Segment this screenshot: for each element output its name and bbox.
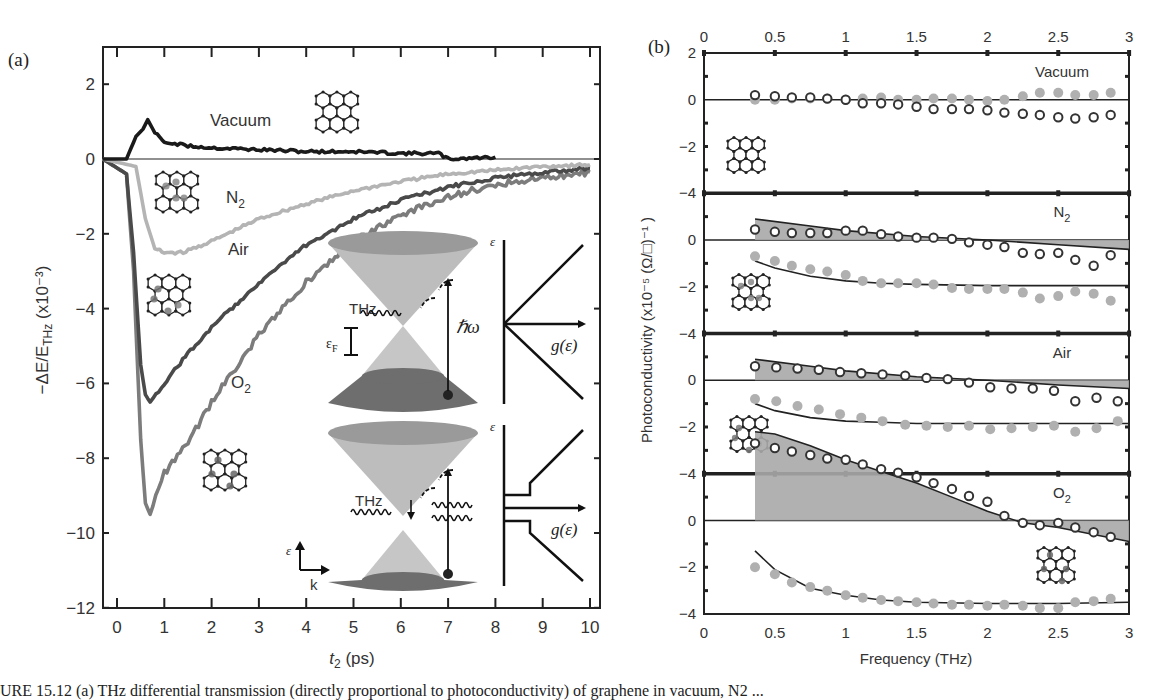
point-imag [1035,293,1045,303]
label-thz-bottom: THz [355,492,383,509]
point-real [1007,384,1015,392]
point-real [1000,512,1008,520]
svg-text:g(ε): g(ε) [551,336,578,355]
y-tick-label: −4 [76,300,95,319]
point-real [1071,256,1079,264]
point-imag [822,586,832,596]
point-real [859,460,867,468]
svg-text:ε: ε [490,234,496,249]
point-real [877,230,885,238]
point-real [878,370,886,378]
point-real [751,225,759,233]
point-real [1019,249,1027,257]
label-hbar-omega: ℏω [456,317,480,337]
point-real [1106,111,1114,119]
x-tick-label-top: 3 [1125,28,1133,45]
emission-wave-2-icon [432,516,472,521]
point-real [857,369,865,377]
point-real [788,447,796,455]
point-imag [1053,603,1063,613]
point-imag [835,409,845,419]
point-imag [1092,423,1102,433]
point-imag [858,593,868,603]
subpanel-label: Air [1053,344,1071,361]
svg-text:ε: ε [490,419,496,434]
x-tick-label: 1 [842,624,850,641]
point-imag [982,284,992,294]
point-imag [1089,90,1099,100]
subpanel-label: O2 [1053,484,1071,505]
point-imag [1070,597,1080,607]
point-imag [999,600,1009,610]
point-real [948,235,956,243]
x-tick-label: 4 [301,618,310,637]
point-real [965,238,973,246]
point-imag [1070,286,1080,296]
point-real [772,363,780,371]
point-imag [1028,422,1038,432]
y-axis-label: −ΔE/ETHz (x10⁻³) [33,266,55,395]
point-imag [876,595,886,605]
point-real [901,371,909,379]
x-tick-label-top: 1 [842,28,850,45]
point-imag [750,251,760,261]
point-real [922,374,930,382]
point-imag [912,597,922,607]
x-tick-label: 7 [443,618,452,637]
x-tick-label-top: 2 [983,28,991,45]
point-imag [921,421,931,431]
emission-wave-1-icon [432,503,472,508]
point-real [1089,113,1097,121]
point-imag [982,96,992,106]
point-real [793,364,801,372]
point-real [771,444,779,452]
point-real [1050,387,1058,395]
point-imag [814,404,824,414]
point-imag [805,582,815,592]
point-real [929,105,937,113]
point-imag [787,261,797,271]
x-tick-label: 3 [1125,624,1133,641]
x-tick-label-top: 0.5 [764,28,785,45]
figure-caption: URE 15.12 (a) THz differential transmiss… [0,682,1166,700]
point-real [842,226,850,234]
subpanel-vacuum: 20−2−4Vacuum [679,44,1131,201]
point-real [1054,113,1062,121]
point-real [983,106,991,114]
point-real [965,378,973,386]
point-real [823,229,831,237]
y-tick-label: −2 [679,138,696,155]
point-real [771,228,779,236]
graphene-flake-icon [1036,546,1076,584]
point-real [912,473,920,481]
point-real [788,229,796,237]
subpanel-o2: 0−2−4O2 [679,432,1131,622]
x-tick-label: 1 [160,618,169,637]
y-tick-label: 2 [86,75,95,94]
point-imag [1106,594,1116,604]
point-imag [985,424,995,434]
x-axis-label: t2 (ps) [329,649,374,671]
graphene-flake-pristine-icon [315,90,360,133]
y-tick-label: −4 [679,184,696,201]
point-imag [771,396,781,406]
y-tick-label: 0 [688,91,696,108]
series-vacuum [103,120,496,160]
point-imag [900,420,910,430]
point-real [771,92,779,100]
point-imag [1070,90,1080,100]
density-of-states-gapped-diagram: εg(ε) [490,419,586,586]
point-real [823,94,831,102]
point-imag [982,601,992,611]
point-real [1071,114,1079,122]
point-imag [1053,88,1063,98]
x-tick-label: 2 [983,624,991,641]
y-tick-label: 0 [86,150,95,169]
point-real [1106,533,1114,541]
point-real [929,233,937,241]
point-imag [1070,427,1080,437]
point-imag [1018,601,1028,611]
y-tick-label: −8 [76,449,95,468]
point-imag [770,256,780,266]
point-imag [893,596,903,606]
